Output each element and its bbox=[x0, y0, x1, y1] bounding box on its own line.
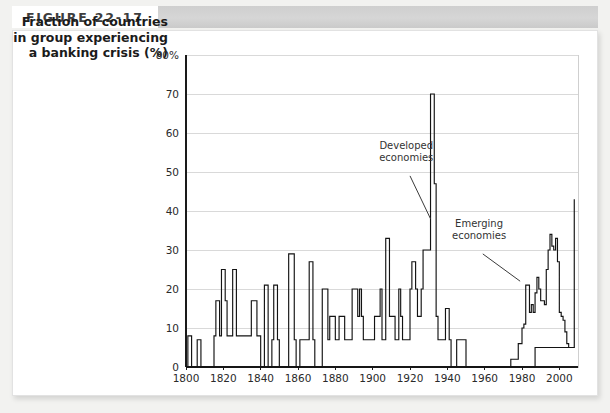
annotation-developed-economies-line-1: Developed bbox=[379, 140, 433, 151]
x-tick-label-1880: 1880 bbox=[322, 372, 349, 384]
y-tick-label-20: 20 bbox=[166, 283, 179, 295]
y-tick-label-0: 0 bbox=[172, 361, 179, 373]
x-tick-label-1920: 1920 bbox=[397, 372, 424, 384]
y-tick-label-40: 40 bbox=[166, 205, 179, 217]
annotation-emerging-economies-line-2: economies bbox=[452, 230, 506, 241]
y-tick-label-80: 80% bbox=[156, 49, 179, 61]
x-tick-label-1840: 1840 bbox=[247, 372, 274, 384]
annotation-emerging-economies-line-1: Emerging bbox=[455, 218, 503, 229]
banking-crisis-chart: 01020304050607080% 180018201840186018801… bbox=[0, 0, 610, 413]
x-tick-label-2000: 2000 bbox=[546, 372, 573, 384]
y-tick-label-30: 30 bbox=[166, 244, 179, 256]
x-tick-label-1940: 1940 bbox=[434, 372, 461, 384]
x-tick-label-1900: 1900 bbox=[359, 372, 386, 384]
x-tick-label-1860: 1860 bbox=[285, 372, 312, 384]
y-tick-label-50: 50 bbox=[166, 166, 179, 178]
y-tick-label-10: 10 bbox=[166, 322, 179, 334]
annotation-developed-economies-line-2: economies bbox=[379, 152, 433, 163]
x-tick-label-1980: 1980 bbox=[509, 372, 536, 384]
x-tick-label-1820: 1820 bbox=[210, 372, 237, 384]
y-tick-label-70: 70 bbox=[166, 88, 179, 100]
x-tick-label-1800: 1800 bbox=[173, 372, 200, 384]
x-tick-label-1960: 1960 bbox=[471, 372, 498, 384]
y-tick-label-60: 60 bbox=[166, 127, 179, 139]
y-axis-ticks: 01020304050607080% bbox=[156, 49, 179, 373]
x-axis-ticks: 1800182018401860188019001920194019601980… bbox=[173, 367, 573, 384]
figure-root: FIGURE 22-17 Fraction of countries in gr… bbox=[0, 0, 610, 413]
